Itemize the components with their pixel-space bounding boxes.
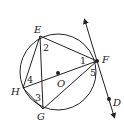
angle-label-2: 2 xyxy=(43,42,49,53)
point-o xyxy=(56,71,60,75)
geometry-diagram: E F H G O D 1 2 3 4 5 xyxy=(0,0,124,125)
tangent-line-fd-lower xyxy=(97,61,114,116)
label-e: E xyxy=(33,24,42,35)
angle-label-4: 4 xyxy=(27,74,33,85)
segment-gf xyxy=(43,61,97,109)
angle-label-5: 5 xyxy=(90,67,96,78)
angle-label-3: 3 xyxy=(35,92,41,103)
point-d xyxy=(107,97,111,101)
label-o: O xyxy=(57,78,65,89)
label-h: H xyxy=(10,86,20,97)
tangent-line-fd xyxy=(85,21,97,61)
label-g: G xyxy=(37,111,45,122)
label-d: D xyxy=(112,97,121,108)
angle-label-1: 1 xyxy=(80,55,86,66)
point-f xyxy=(95,59,99,63)
label-f: F xyxy=(101,54,110,65)
